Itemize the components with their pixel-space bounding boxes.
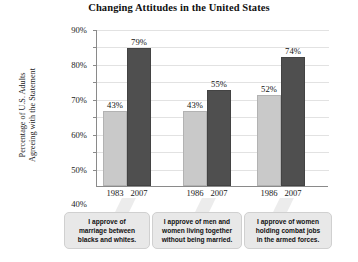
y-axis-tick-label: 70% (71, 95, 87, 105)
x-axis-tick-label: 1986 (186, 188, 203, 198)
x-axis-tick-label: 2007 (284, 188, 301, 198)
bar-value-label: 43% (187, 100, 203, 110)
y-axis-tick: 90% (93, 30, 97, 31)
y-axis-tick-label: 40% (71, 199, 87, 209)
bar[interactable]: 43%1983 (103, 111, 127, 186)
bar-value-label: 43% (107, 100, 123, 110)
y-axis-tick: 70% (93, 65, 97, 66)
y-axis-tick-label: 90% (71, 25, 87, 35)
y-axis-tick: 20% (93, 152, 97, 153)
group-caption-callout: I approve of women holding combat jobs i… (244, 212, 332, 249)
gridline (97, 30, 329, 31)
bar-value-label: 79% (131, 37, 147, 47)
bar[interactable]: 74%2007 (281, 57, 305, 186)
bar[interactable]: 52%1986 (257, 95, 281, 186)
bar-value-label: 74% (285, 46, 301, 56)
x-axis-tick-label: 1983 (106, 188, 123, 198)
x-axis-tick-label: 2007 (210, 188, 227, 198)
y-axis-tick-label: 60% (71, 130, 87, 140)
y-axis-tick: 40% (93, 117, 97, 118)
y-axis-tick-label: 50% (71, 165, 87, 175)
page-title: Changing Attitudes in the United States (0, 2, 358, 13)
bar[interactable]: 55%2007 (207, 90, 231, 186)
y-axis-tick: 60% (93, 82, 97, 83)
group-caption-callout: I approve of men and women living togeth… (152, 212, 242, 249)
y-axis-title: Percentage of U.S. Adults Agreeing with … (18, 40, 38, 190)
bar[interactable]: 43%1986 (183, 111, 207, 186)
group-caption-callout: I approve of marriage between blacks and… (64, 212, 150, 249)
x-axis-tick-label: 2007 (130, 188, 147, 198)
x-axis-tick-label: 1986 (260, 188, 277, 198)
y-axis-tick-label: 80% (71, 60, 87, 70)
y-axis-tick: 30% (93, 135, 97, 136)
bar-value-label: 52% (261, 84, 277, 94)
y-axis-tick: 10% (93, 170, 97, 171)
y-axis-tick: 80% (93, 47, 97, 48)
plot-area: 90%80%70%60%50%40%30%20%10%43%198379%200… (96, 30, 328, 187)
y-axis-tick: 50% (93, 100, 97, 101)
bar-value-label: 55% (211, 79, 227, 89)
bar[interactable]: 79%2007 (127, 48, 151, 186)
